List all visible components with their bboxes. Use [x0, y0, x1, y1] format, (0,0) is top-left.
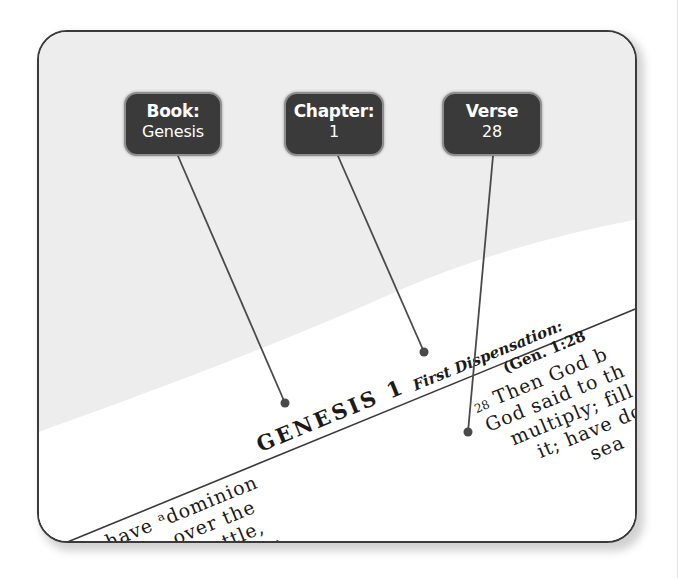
book-leader-dot — [281, 399, 290, 408]
book-callout-value: Genesis — [126, 121, 220, 143]
chapter-callout: Chapter: 1 — [284, 92, 384, 156]
chapter-leader-dot — [420, 348, 429, 357]
book-callout: Book: Genesis — [124, 92, 222, 156]
verse-callout-label: Verse — [444, 101, 540, 121]
book-callout-label: Book: — [126, 101, 220, 121]
chapter-callout-label: Chapter: — [286, 101, 382, 121]
page-edge-line — [677, 0, 678, 578]
verse-callout-value: 28 — [444, 121, 540, 143]
chapter-callout-value: 1 — [286, 121, 382, 143]
verse-callout: Verse 28 — [442, 92, 542, 156]
verse-leader-dot — [464, 428, 473, 437]
